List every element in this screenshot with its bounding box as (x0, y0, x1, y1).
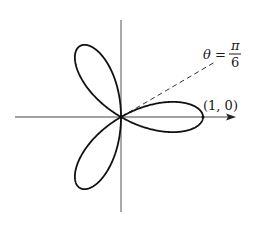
pi-numerator: π (230, 38, 240, 53)
theta-pi-over-6-ray (121, 62, 215, 117)
point-label: (1, 0) (203, 98, 238, 113)
theta-label: θ = (203, 47, 226, 62)
polar-rose-diagram: (1, 0) θ = π 6 (0, 0, 255, 241)
six-denominator: 6 (231, 55, 239, 70)
point-1-0-marker (201, 115, 204, 118)
